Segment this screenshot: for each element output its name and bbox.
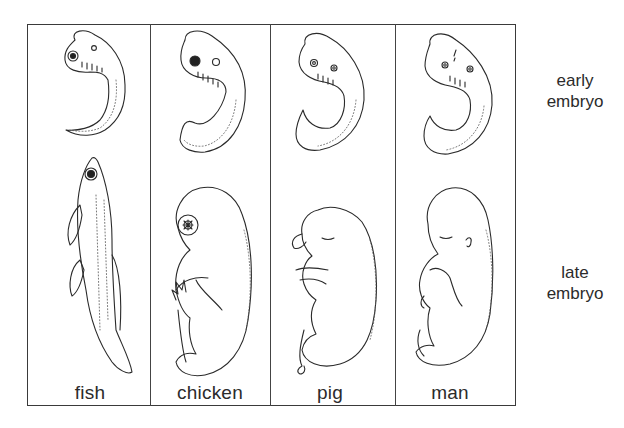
column-label-fish: fish bbox=[60, 382, 120, 404]
column-label-chicken: chicken bbox=[170, 382, 250, 404]
row-label-early-embryo: early embryo bbox=[530, 70, 620, 112]
row-label-early-line1: early bbox=[530, 70, 620, 91]
column-label-pig: pig bbox=[295, 382, 365, 404]
man-early-embryo-drawing bbox=[424, 34, 492, 154]
row-label-early-line2: embryo bbox=[530, 91, 620, 112]
pig-early-embryo-drawing bbox=[296, 33, 364, 150]
row-label-late-embryo: late embryo bbox=[530, 262, 620, 304]
embryo-illustrations bbox=[0, 0, 624, 428]
fish-late-embryo-drawing bbox=[68, 158, 132, 373]
row-label-late-line2: embryo bbox=[530, 283, 620, 304]
man-late-embryo-drawing bbox=[416, 188, 493, 365]
pig-late-embryo-drawing bbox=[292, 207, 376, 374]
chicken-early-embryo-drawing bbox=[180, 31, 245, 152]
column-label-man: man bbox=[415, 382, 485, 404]
row-label-late-line1: late bbox=[530, 262, 620, 283]
fish-early-embryo-drawing bbox=[65, 31, 125, 135]
chicken-late-embryo-drawing bbox=[172, 187, 251, 376]
